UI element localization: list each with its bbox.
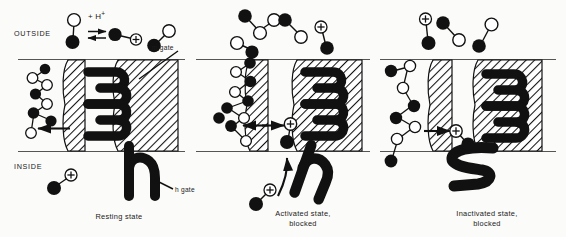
particle-open [391,133,402,144]
panel-caption-line1: Inactivated state, [456,209,517,218]
particle-filled [40,64,51,75]
particle-open [397,82,408,93]
panel-caption: Resting state [95,212,142,221]
particle-filled [225,120,237,132]
particle-open [409,121,420,132]
particle-filled [390,112,402,124]
particle-filled [221,102,233,114]
h-gate-label: h gate [175,186,195,194]
panel-caption-line1: Activated state, [275,209,330,218]
particle-filled [249,197,263,211]
particle-open [230,87,241,98]
particle-filled [45,115,56,126]
particle-open [485,18,498,31]
particle-filled [461,137,474,150]
particle-open [163,25,175,37]
particle-filled [385,65,397,77]
particle-open [295,31,307,43]
particle-filled [66,35,80,49]
particle-filled [47,181,61,195]
sodium-channel-gating-figure: + H+ m gate h gate OUTSIDE INSIDE Restin… [0,0,566,237]
particle-open [239,113,250,124]
particle-filled [213,112,225,124]
particle-filled [436,16,450,30]
particle-filled [30,88,41,99]
membrane-block-left [63,60,85,151]
panel-caption-line2: blocked [473,219,501,228]
particle-filled [280,135,294,149]
m-gate-label: m gate [152,44,174,52]
particle-open [241,136,252,147]
particle-open [404,60,415,71]
particle-filled [242,95,254,107]
outside-label: OUTSIDE [14,29,51,38]
membrane-block-left [428,60,452,151]
particle-open [42,80,53,91]
particle-open [453,34,465,46]
panel-caption-line2: blocked [289,219,317,228]
particle-filled [245,76,257,88]
particle-open [231,37,244,50]
particle-filled [245,45,258,58]
particle-filled [244,57,256,69]
particle-filled [422,36,436,50]
particle-open [254,27,267,40]
particle-filled [28,107,40,119]
particle-filled [472,39,486,53]
particle-open [27,73,38,84]
particle-open [26,128,37,139]
particle-filled [320,41,334,55]
particle-filled [385,155,398,168]
particle-filled [408,100,420,112]
particle-filled [238,9,252,23]
particle-open [231,67,242,78]
particle-open [42,99,53,110]
particle-filled [108,28,121,41]
particle-open [68,14,81,27]
inside-label: INSIDE [14,162,42,171]
particle-filled [278,13,292,27]
